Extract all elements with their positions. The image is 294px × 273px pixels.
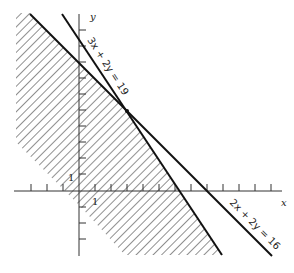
x-unit-label: 1: [92, 196, 98, 207]
y-axis-label: y: [89, 11, 96, 22]
label-2x-2y-16: 2x + 2y = 16: [228, 197, 283, 252]
shaded-region: [16, 13, 222, 255]
x-axis-label: x: [281, 197, 287, 208]
diagram-canvas: y x 1 1 3x + 2y = 19 2x + 2y = 16: [0, 0, 294, 273]
y-unit-label: 1: [68, 172, 74, 183]
intersection-point: [125, 109, 129, 113]
